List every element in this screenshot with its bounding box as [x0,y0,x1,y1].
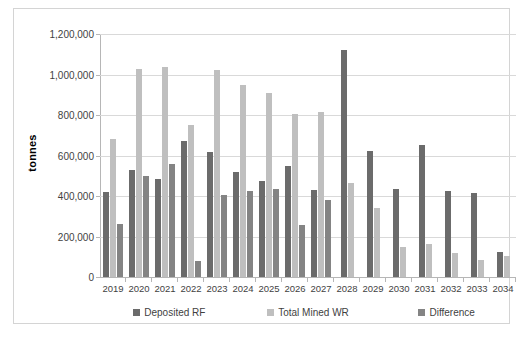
y-axis-tick-label: 800,000 [32,110,94,121]
x-axis-tick-labels: 2019202020212022202320242025202620272028… [100,283,516,297]
chart-legend: Deposited RFTotal Mined WRDifference [100,304,516,320]
bar [155,179,161,277]
x-axis-tick-label: 2032 [438,283,464,297]
bar-group [386,34,412,277]
bar [400,247,406,277]
bar [143,176,149,277]
bar-group [204,34,230,277]
bar [419,145,425,277]
legend-swatch-icon [267,309,274,316]
x-axis-tick-label: 2034 [490,283,516,297]
bar [292,114,298,277]
y-axis-tick-label: 1,000,000 [32,69,94,80]
bar [103,192,109,277]
bar [266,93,272,277]
x-axis-tick-label: 2022 [178,283,204,297]
bar [129,170,135,277]
x-axis-tick-label: 2028 [334,283,360,297]
bar-group [152,34,178,277]
y-axis-tick-label: 400,000 [32,191,94,202]
bar [169,164,175,277]
x-axis-tick-label: 2024 [230,283,256,297]
x-axis-tick-label: 2031 [412,283,438,297]
y-axis-tick-labels: 0200,000400,000600,000800,0001,000,0001,… [32,9,94,337]
x-axis-tick-label: 2019 [100,283,126,297]
x-axis-tick-label: 2020 [126,283,152,297]
bar [195,261,201,277]
bar-group [334,34,360,277]
bar [233,172,239,277]
bar [285,166,291,277]
plot-area [100,34,516,277]
x-axis-tick-label: 2033 [464,283,490,297]
bar [117,224,123,277]
bar [214,70,220,277]
bar-group [256,34,282,277]
bar [188,125,194,277]
x-axis-tick-label: 2021 [152,283,178,297]
bar-group [360,34,386,277]
legend-item[interactable]: Difference [377,304,516,320]
bar [325,200,331,277]
x-axis-tick-label: 2026 [282,283,308,297]
legend-swatch-icon [418,309,425,316]
bar-group [464,34,490,277]
bar-group [230,34,256,277]
bar [221,195,227,277]
y-axis-tick-label: 0 [32,272,94,283]
x-axis-tick-label: 2025 [256,283,282,297]
bar [299,225,305,277]
bar [240,85,246,277]
legend-item[interactable]: Deposited RF [100,304,239,320]
bar-group [282,34,308,277]
bar-group [412,34,438,277]
bar-group [438,34,464,277]
bar [247,191,253,277]
bar [452,253,458,277]
x-axis-tick-label: 2023 [204,283,230,297]
bar [367,151,373,277]
legend-swatch-icon [133,309,140,316]
bar [311,190,317,277]
bar-group [100,34,126,277]
bar [259,181,265,277]
bar [374,208,380,277]
bar-group [490,34,516,277]
bar [162,67,168,277]
x-axis-tick-label: 2029 [360,283,386,297]
bar [504,256,510,277]
bar [445,191,451,277]
y-axis-tick-label: 1,200,000 [32,29,94,40]
bar [110,139,116,277]
bar [497,252,503,277]
y-axis-tick-label: 600,000 [32,150,94,161]
bar [136,69,142,277]
bar-group [126,34,152,277]
legend-label: Total Mined WR [278,307,349,318]
chart-frame: tonnes 0200,000400,000600,000800,0001,00… [13,8,510,324]
bar-groups [100,34,516,277]
bar [273,189,279,277]
bar [393,189,399,277]
bar [478,260,484,277]
bar [181,141,187,277]
x-axis-tick-label: 2027 [308,283,334,297]
bar [207,152,213,277]
x-axis-tick-label: 2030 [386,283,412,297]
bar [348,183,354,277]
y-axis-tick-label: 200,000 [32,231,94,242]
bar-group [308,34,334,277]
legend-item[interactable]: Total Mined WR [239,304,378,320]
bar-group [178,34,204,277]
bar [318,112,324,277]
bar [426,244,432,277]
bar [471,193,477,277]
bar [341,50,347,277]
legend-label: Deposited RF [144,307,205,318]
legend-label: Difference [429,307,474,318]
